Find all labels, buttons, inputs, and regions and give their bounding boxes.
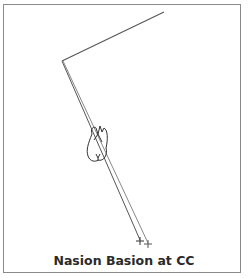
cross-marker-icon — [144, 240, 152, 248]
cc-line — [63, 61, 148, 243]
nasion-basion-line — [62, 61, 140, 240]
cross-marker-icon — [136, 237, 144, 245]
upper-line — [62, 12, 164, 61]
tooth-icon — [87, 126, 107, 161]
diagram-canvas — [0, 0, 248, 278]
figure-caption: Nasion Basion at CC — [0, 253, 248, 268]
